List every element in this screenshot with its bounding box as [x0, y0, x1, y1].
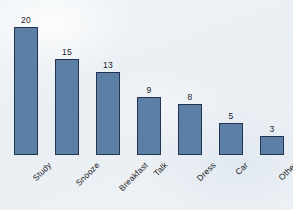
x-axis-label-car: Car [233, 160, 250, 177]
bar-study [14, 27, 38, 155]
bar-breakfast [96, 72, 120, 155]
bar-value-label-snooze: 15 [47, 47, 87, 57]
x-axis-label-breakfast: Breakfast [117, 160, 150, 193]
x-axis-label-study: Study [31, 160, 54, 183]
bar-value-label-talk: 9 [129, 85, 169, 95]
x-axis-label-snooze: Snooze [74, 160, 102, 188]
x-axis-label-other: Other [276, 160, 293, 182]
bar-value-label-car: 5 [211, 111, 251, 121]
plot-area: 20Study15Snooze13Breakfast9Talk8Dress5Ca… [0, 0, 293, 210]
bar-car [219, 123, 243, 155]
bar-talk [137, 97, 161, 155]
x-axis-label-dress: Dress [195, 160, 218, 183]
x-axis-label-talk: Talk [152, 160, 170, 178]
bar-other [260, 136, 284, 155]
bar-value-label-breakfast: 13 [88, 60, 128, 70]
bar-dress [178, 104, 202, 155]
bar-value-label-study: 20 [6, 15, 46, 25]
bar-snooze [55, 59, 79, 155]
bar-chart: 20Study15Snooze13Breakfast9Talk8Dress5Ca… [0, 0, 293, 210]
bar-value-label-other: 3 [252, 124, 292, 134]
bar-value-label-dress: 8 [170, 92, 210, 102]
